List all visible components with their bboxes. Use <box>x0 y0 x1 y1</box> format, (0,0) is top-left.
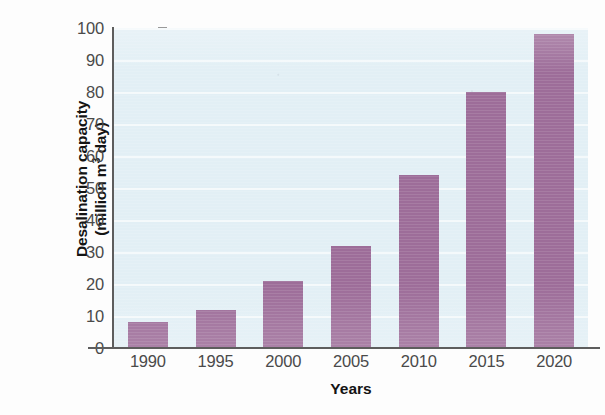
bar <box>263 281 303 348</box>
x-axis-tick-labels: 1990199520002005201020152020 <box>114 352 588 378</box>
x-tick-label: 2000 <box>246 352 320 371</box>
y-tick-label: 40 <box>54 211 104 230</box>
y-tick-label: 20 <box>54 275 104 294</box>
x-tick-label: 1990 <box>111 352 185 371</box>
x-axis-title: Years <box>114 380 588 398</box>
y-axis-line <box>112 27 114 349</box>
bar <box>466 92 506 348</box>
x-tick-label: 2015 <box>449 352 523 371</box>
bar-series <box>114 28 588 348</box>
bar <box>128 322 168 348</box>
y-tick-label: 70 <box>54 115 104 134</box>
x-tick-label: 2020 <box>517 352 591 371</box>
y-tick-label: 100 <box>54 19 104 38</box>
y-tick-label: 80 <box>54 83 104 102</box>
bar-chart-figure: Desalination capacity (million m3 day) 0… <box>0 0 605 415</box>
plot-area <box>114 28 588 348</box>
y-tick-label: 50 <box>54 179 104 198</box>
bar <box>331 246 371 348</box>
y-tick-label: 30 <box>54 243 104 262</box>
y-tick-label: 90 <box>54 51 104 70</box>
y-tick-label: 10 <box>54 307 104 326</box>
bar <box>534 34 574 348</box>
bar <box>196 310 236 348</box>
x-tick-label: 2010 <box>382 352 456 371</box>
y-tick-label: 60 <box>54 147 104 166</box>
y-axis-tick-labels: 0102030405060708090100 <box>54 28 104 348</box>
x-tick-label: 2005 <box>314 352 388 371</box>
bar <box>399 175 439 348</box>
x-tick-label: 1995 <box>179 352 253 371</box>
x-axis-line <box>88 347 600 349</box>
